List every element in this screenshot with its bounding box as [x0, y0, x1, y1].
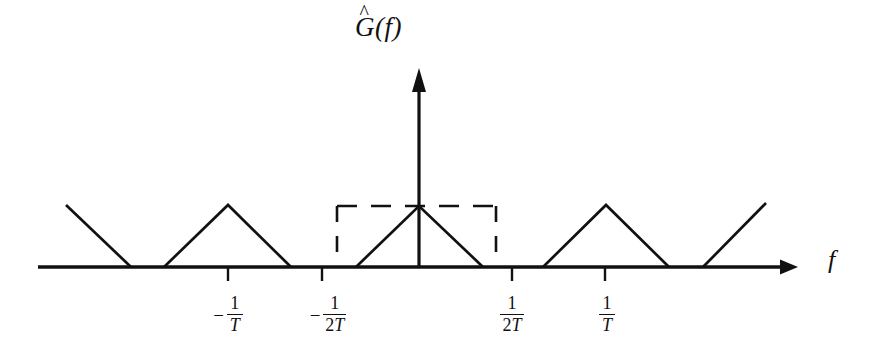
y-axis-title: ^G(f)	[355, 14, 402, 41]
numerator: 1	[601, 294, 614, 313]
x-axis-ticks	[228, 268, 605, 281]
fraction: 1 T	[227, 294, 243, 335]
numerator: 1	[328, 294, 341, 313]
denominator: 2T	[500, 316, 523, 335]
denominator-symbol: T	[511, 315, 521, 335]
x-axis-arrowhead	[780, 260, 798, 275]
y-axis	[412, 68, 426, 267]
tick-label-neg-one-over-2T: − 1 2T	[296, 294, 360, 335]
y-axis-arrowhead	[412, 68, 426, 92]
figure-canvas: ^G(f) f − 1 T − 1 2T 1 2T 1 T	[0, 0, 877, 356]
denominator: 2T	[323, 316, 346, 335]
replica-right-partial	[703, 203, 766, 267]
denominator: T	[600, 316, 614, 335]
minus-sign: −	[213, 305, 224, 327]
replica-left-partial	[66, 205, 131, 267]
fraction: 1 T	[599, 294, 615, 335]
denominator-symbol: T	[334, 315, 344, 335]
fraction: 1 2T	[323, 294, 346, 335]
circumflex-accent: ^	[359, 2, 369, 22]
tick-label-one-over-T: 1 T	[585, 294, 629, 335]
x-axis-title: f	[828, 247, 835, 273]
denominator-coefficient: 2	[325, 315, 334, 335]
replica-plus-one-over-T	[543, 205, 669, 267]
denominator: T	[228, 316, 242, 335]
numerator: 1	[228, 294, 241, 313]
of-f-argument: (f)	[375, 12, 402, 42]
fraction: 1 2T	[500, 294, 523, 335]
minus-sign: −	[310, 305, 321, 327]
replica-minus-one-over-T	[164, 205, 291, 267]
tick-label-one-over-2T: 1 2T	[486, 294, 538, 335]
spectrum-plot	[0, 0, 877, 356]
spectrum-replicas	[66, 203, 766, 267]
tick-label-neg-one-over-T: − 1 T	[200, 294, 256, 335]
numerator: 1	[505, 294, 518, 313]
g-hat-symbol: ^G	[355, 14, 375, 41]
